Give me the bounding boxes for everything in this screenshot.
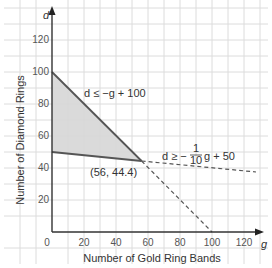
- svg-text:60: 60: [142, 237, 154, 248]
- inequality-graph: 0 20 40 60 80 100 120 g 20 40 60 80 100 …: [0, 0, 272, 268]
- svg-text:80: 80: [174, 237, 186, 248]
- x-axis-title: Number of Gold Ring Bands: [83, 252, 221, 264]
- ineq2-label-right: g + 50: [204, 150, 235, 162]
- svg-text:100: 100: [32, 66, 49, 77]
- svg-text:80: 80: [38, 98, 50, 109]
- svg-text:120: 120: [236, 237, 253, 248]
- ineq2-fraction-numerator: 1: [193, 142, 199, 154]
- ineq2-fraction-denominator: 10: [190, 154, 202, 166]
- ineq1-label: d ≤ −g + 100: [84, 87, 146, 99]
- line-ineq1-dashed: [142, 161, 212, 232]
- x-axis-variable: g: [261, 238, 268, 250]
- y-axis-arrow-icon: [49, 6, 56, 15]
- y-axis-variable: d: [43, 9, 50, 21]
- svg-text:60: 60: [38, 130, 50, 141]
- svg-text:40: 40: [110, 237, 122, 248]
- x-tick-labels: 0 20 40 60 80 100 120: [44, 237, 253, 248]
- svg-text:20: 20: [38, 194, 50, 205]
- svg-text:0: 0: [44, 237, 50, 248]
- svg-text:20: 20: [78, 237, 90, 248]
- svg-text:100: 100: [204, 237, 221, 248]
- svg-text:120: 120: [32, 34, 49, 45]
- intersection-point-label: (56, 44.4): [90, 166, 137, 178]
- ineq2-label-left: d ≥ −: [162, 150, 187, 162]
- svg-text:40: 40: [38, 162, 50, 173]
- y-axis-title: Number of Diamond Rings: [14, 75, 26, 205]
